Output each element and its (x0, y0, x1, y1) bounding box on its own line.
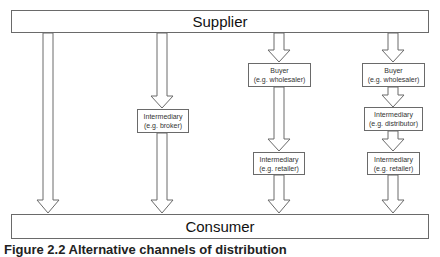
node-title: Intermediary (138, 112, 188, 121)
arrow-distributor-to-retailer-4 (382, 131, 404, 151)
arrow-supplier-to-broker (151, 33, 173, 108)
supplier-label: Supplier (192, 13, 247, 30)
node-example: (e.g. distributor) (365, 119, 422, 128)
arrow-supplier-to-buyer-3 (268, 33, 290, 62)
arrow-retailer-to-consumer-3 (268, 175, 290, 213)
node-title: Intermediary (368, 155, 419, 164)
node-title: Intermediary (254, 155, 304, 164)
arrow-buyer-to-retailer-3 (268, 87, 290, 151)
node-example: (e.g. wholesaler) (363, 75, 424, 84)
arrow-direct (37, 33, 59, 213)
retailer-node-3: Intermediary (e.g. retailer) (253, 152, 305, 175)
supplier-box: Supplier (11, 10, 429, 33)
broker-node: Intermediary (e.g. broker) (137, 109, 189, 133)
arrow-buyer-to-distributor-4 (382, 87, 404, 107)
node-example: (e.g. retailer) (254, 164, 304, 173)
node-title: Buyer (363, 66, 424, 75)
node-example: (e.g. wholesaler) (249, 75, 310, 84)
arrow-broker-to-consumer (151, 133, 173, 213)
node-example: (e.g. broker) (138, 121, 188, 130)
arrow-supplier-to-buyer-4 (382, 33, 404, 62)
distributor-node-4: Intermediary (e.g. distributor) (364, 107, 423, 131)
arrow-retailer-to-consumer-4 (382, 175, 404, 213)
wholesaler-node-4: Buyer (e.g. wholesaler) (362, 63, 425, 87)
consumer-label: Consumer (185, 218, 254, 235)
node-example: (e.g. retailer) (368, 164, 419, 173)
node-title: Intermediary (365, 110, 422, 119)
consumer-box: Consumer (11, 214, 429, 239)
figure-caption: Figure 2.2 Alternative channels of distr… (4, 242, 287, 257)
node-title: Buyer (249, 66, 310, 75)
wholesaler-node-3: Buyer (e.g. wholesaler) (248, 63, 311, 87)
retailer-node-4: Intermediary (e.g. retailer) (367, 152, 420, 175)
